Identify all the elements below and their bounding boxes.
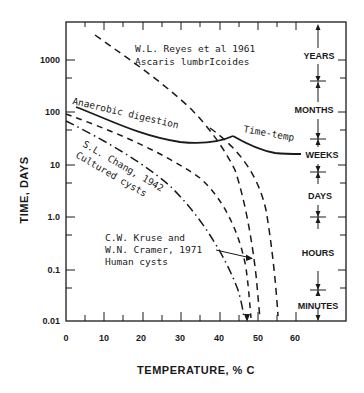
- y-tick-0-01: 0.01: [42, 316, 60, 326]
- y-axis-title: TIME, DAYS: [18, 157, 30, 224]
- time-scale-labels: YEARS MONTHS WEEKS DAYS HOURS MINUTES: [295, 51, 339, 311]
- x-tick-10: 10: [99, 333, 109, 343]
- time-scale-markers: [310, 24, 326, 321]
- scale-days: DAYS: [308, 191, 332, 201]
- kruse-label-line2: W.N. Cramer, 1971: [105, 244, 203, 255]
- kruse-label-line1: C.W. Kruse and: [105, 232, 185, 243]
- anaerobic-digestion-label: Anaerobic digestion: [72, 95, 180, 130]
- x-tick-50: 50: [253, 333, 263, 343]
- y-tick-10: 10: [50, 160, 60, 170]
- x-tick-40: 40: [214, 333, 224, 343]
- reyes-label-line1: W.L. Reyes et al 1961: [135, 43, 255, 54]
- kruse-label-line3: Human cysts: [105, 256, 168, 267]
- reyes-label-line2: Ascaris lumbrIcoides: [135, 56, 249, 67]
- x-tick-labels: 0 10 20 30 40 50 60: [63, 333, 300, 343]
- x-tick-30: 30: [175, 333, 185, 343]
- scale-hours: HOURS: [302, 248, 335, 258]
- kruse-pointer-arrowhead: [246, 255, 253, 262]
- time-temp-label: Time-temp: [243, 123, 296, 143]
- y-tick-1: 1.0: [47, 212, 60, 222]
- x-axis-title: TEMPERATURE, % C: [137, 364, 255, 376]
- x-tick-0: 0: [63, 333, 68, 343]
- y-tick-0-1: 0.1: [47, 265, 60, 275]
- scale-minutes: MINUTES: [298, 301, 339, 311]
- scale-weeks: WEEKS: [305, 150, 338, 160]
- y-tick-1000: 1000: [40, 55, 60, 65]
- scale-months: MONTHS: [295, 105, 334, 115]
- y-tick-100: 100: [45, 107, 60, 117]
- y-tick-labels: 1000 100 10 1.0 0.1 0.01: [40, 55, 60, 326]
- x-tick-20: 20: [136, 333, 146, 343]
- x-tick-60: 60: [290, 333, 300, 343]
- reyes-curve-tail: [210, 128, 278, 316]
- chart-canvas: 1000 100 10 1.0 0.1 0.01 0 10 20 30 40 5…: [0, 0, 364, 393]
- scale-years: YEARS: [303, 51, 334, 61]
